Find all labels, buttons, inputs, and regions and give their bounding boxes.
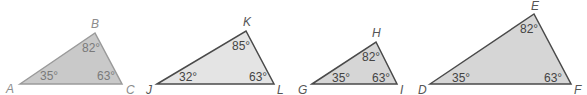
angle-label-g: 35° bbox=[332, 71, 350, 85]
vertex-label-k: K bbox=[243, 15, 252, 29]
triangle-ghi: G H I 35° 82° 63° bbox=[298, 26, 404, 95]
triangles-diagram: A B C 35° 82° 63° J K L 32° 85° 63° G H … bbox=[0, 0, 587, 95]
angle-label-h: 82° bbox=[362, 50, 380, 64]
vertex-label-i: I bbox=[400, 83, 404, 95]
vertex-label-f: F bbox=[574, 83, 582, 95]
vertex-label-j: J bbox=[145, 83, 153, 95]
angle-label-d: 35° bbox=[452, 71, 470, 85]
vertex-label-h: H bbox=[372, 26, 381, 40]
vertex-label-l: L bbox=[277, 83, 284, 95]
vertex-label-b: B bbox=[91, 17, 99, 31]
triangle-jkl: J K L 32° 85° 63° bbox=[145, 15, 284, 95]
triangle-def: D E F 35° 82° 63° bbox=[418, 0, 582, 95]
angle-label-b: 82° bbox=[82, 41, 100, 55]
angle-label-k: 85° bbox=[232, 39, 250, 53]
vertex-label-e: E bbox=[531, 0, 540, 13]
angle-label-e: 82° bbox=[520, 22, 538, 36]
angle-label-l: 63° bbox=[249, 70, 267, 84]
angle-label-f: 63° bbox=[544, 71, 562, 85]
angle-label-i: 63° bbox=[372, 71, 390, 85]
vertex-label-a: A bbox=[5, 82, 14, 95]
angle-label-j: 32° bbox=[179, 70, 197, 84]
angle-label-a: 35° bbox=[40, 69, 58, 83]
vertex-label-g: G bbox=[298, 83, 307, 95]
vertex-label-d: D bbox=[418, 83, 427, 95]
angle-label-c: 63° bbox=[97, 69, 115, 83]
triangle-abc: A B C 35° 82° 63° bbox=[5, 17, 135, 95]
vertex-label-c: C bbox=[126, 83, 135, 95]
